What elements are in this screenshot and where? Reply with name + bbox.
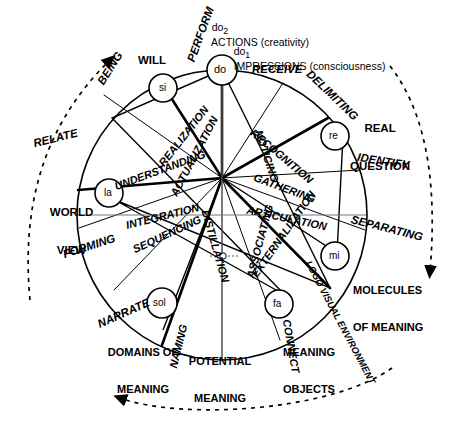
note-do1-subscript: 1 xyxy=(245,50,250,60)
title-potential-meaning-line2: MEANING xyxy=(184,392,256,404)
node-sol-label[interactable]: sol xyxy=(153,297,166,308)
title-meaning-objects-line2: OBJECTS xyxy=(283,383,335,395)
title-domains: DOMAINS OF MEANING xyxy=(100,321,186,420)
title-world-view-line1: WORLD xyxy=(44,206,99,219)
diagram-canvas: do2 ACTIONS (creativity) do1 IMPRESSIONS… xyxy=(0,0,455,429)
title-molecules: MOLECULES OF MEANING xyxy=(353,259,423,358)
node-re-label[interactable]: re xyxy=(329,130,338,141)
node-si-label[interactable]: si xyxy=(159,82,166,93)
title-potential-meaning-line1: POTENTIAL xyxy=(184,355,256,367)
title-real-question: REAL QUESTION xyxy=(350,96,410,199)
title-potential-meaning: POTENTIAL MEANING xyxy=(184,330,256,429)
title-real-question-line2: QUESTION xyxy=(350,160,410,173)
node-mi-label[interactable]: mi xyxy=(329,250,340,261)
note-do1-prefix: do xyxy=(234,45,246,57)
node-la-label[interactable]: la xyxy=(104,187,112,198)
title-molecules-line2: OF MEANING xyxy=(353,321,423,333)
outer-receive: RECEIVE xyxy=(252,63,303,76)
note-do2-prefix: do xyxy=(212,21,224,33)
title-meaning-objects: MEANING OBJECTS xyxy=(283,321,335,420)
title-meaning-objects-line1: MEANING xyxy=(283,346,335,358)
title-world-view: WORLD VIEW xyxy=(44,180,99,283)
title-domains-line1: DOMAINS OF xyxy=(100,346,186,358)
title-real-question-line1: REAL xyxy=(350,122,410,135)
outer-will: WILL xyxy=(138,54,166,67)
node-do-label[interactable]: do xyxy=(214,63,226,75)
node-fa-label[interactable]: fa xyxy=(273,298,281,309)
title-molecules-line1: MOLECULES xyxy=(353,284,423,296)
title-domains-line2: MEANING xyxy=(100,383,186,395)
title-world-view-line2: VIEW xyxy=(44,244,99,257)
